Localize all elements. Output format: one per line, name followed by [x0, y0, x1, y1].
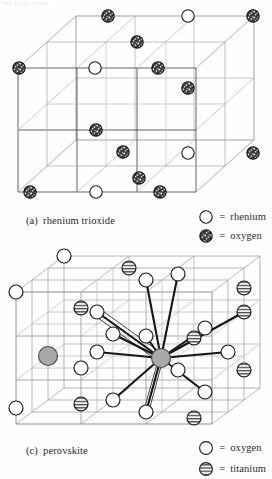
legend-item-titanium: = titanium [198, 459, 266, 478]
central-bond-lines [97, 274, 244, 412]
caption-label-a: (a) [26, 215, 38, 226]
legend-equals-rhenium: = [219, 211, 225, 222]
legend-item-oxygen-perovskite: = oxygen [198, 438, 266, 457]
caption-perovskite: (c) perovskite [0, 438, 88, 456]
perovskite-lattice [0, 252, 272, 442]
figure-page: the front cover [0, 0, 272, 479]
speckled-circle-icon [198, 228, 214, 244]
striped-circle-icon [198, 461, 214, 477]
caption-text-a: rhenium trioxide [43, 215, 115, 226]
legend-rhenium-trioxide: = rhenium = [198, 208, 266, 244]
legend-equals-titanium: = [219, 463, 225, 474]
caption-text-c: perovskite [43, 445, 88, 456]
caption-row-a: (a) rhenium trioxide = rhenium [0, 208, 272, 226]
legend-perovskite: = oxygen = titanium [198, 438, 266, 478]
open-circle-icon [198, 440, 214, 456]
caption-label-c: (c) [26, 445, 38, 456]
figure-perovskite [0, 252, 272, 442]
caption-rhenium-trioxide: (a) rhenium trioxide [0, 208, 115, 226]
legend-item-rhenium: = rhenium [198, 208, 266, 225]
open-circle-icon [198, 209, 214, 225]
legend-label-oxygen: oxygen [230, 230, 262, 241]
legend-item-oxygen: = oxygen [198, 227, 266, 244]
legend-label-oxygen-perovskite: oxygen [230, 442, 262, 453]
legend-label-titanium: titanium [230, 463, 266, 474]
atom-group-titanium [74, 261, 251, 425]
figure-rhenium-trioxide [0, 6, 272, 206]
rhenium-trioxide-lattice [0, 6, 272, 206]
legend-equals-oxygen: = [219, 230, 225, 241]
legend-label-rhenium: rhenium [230, 211, 266, 222]
caption-row-c: (c) perovskite = oxygen [0, 438, 272, 456]
legend-equals-oxygen-perovskite: = [219, 442, 225, 453]
